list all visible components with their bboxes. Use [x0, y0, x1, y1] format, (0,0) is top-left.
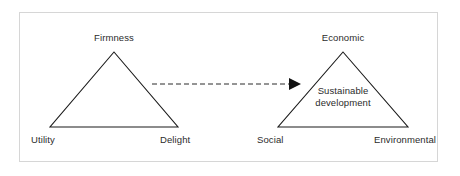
diagram-canvas — [0, 0, 460, 176]
left-triangle-bottom-left-label: Utility — [31, 134, 55, 145]
right-triangle-inner-label-line2: development — [315, 97, 371, 108]
arrowhead-icon — [289, 78, 301, 90]
left-triangle-bottom-right-label: Delight — [160, 134, 190, 145]
right-triangle-bottom-right-label: Environmental — [374, 134, 436, 145]
left-triangle-apex-label: Firmness — [94, 32, 134, 43]
left-triangle-shape — [50, 52, 178, 127]
right-triangle-inner-label-line1: Sustainable — [318, 85, 369, 96]
right-triangle-bottom-left-label: Social — [257, 134, 283, 145]
right-triangle-apex-label: Economic — [322, 32, 365, 43]
figure-root: Firmness Utility Delight Economic Social… — [0, 0, 460, 176]
